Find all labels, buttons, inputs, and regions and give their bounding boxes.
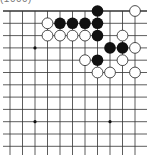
white-stone-icon[interactable] (130, 43, 141, 54)
white-stone-icon[interactable] (80, 30, 91, 41)
black-stone-icon[interactable] (117, 42, 129, 54)
white-stone-icon[interactable] (42, 30, 53, 41)
white-stone-icon[interactable] (117, 30, 128, 41)
white-stone-icon[interactable] (130, 6, 141, 17)
black-stone-icon[interactable] (67, 18, 79, 30)
black-stone-icon[interactable] (92, 18, 104, 30)
white-stone-icon[interactable] (80, 55, 91, 66)
white-stone-icon[interactable] (117, 55, 128, 66)
black-stone-icon[interactable] (92, 5, 104, 17)
black-stone-icon[interactable] (92, 30, 104, 42)
star-point-icon (108, 120, 111, 123)
black-stone-icon[interactable] (79, 18, 91, 30)
white-stone-icon[interactable] (55, 30, 66, 41)
star-point-icon (33, 120, 36, 123)
star-point-icon (33, 46, 36, 49)
white-stone-icon[interactable] (105, 67, 116, 78)
white-stone-icon[interactable] (130, 67, 141, 78)
white-stone-icon[interactable] (42, 18, 53, 29)
white-stone-icon[interactable] (67, 30, 78, 41)
black-stone-icon[interactable] (92, 54, 104, 66)
black-stone-icon[interactable] (54, 18, 66, 30)
go-board (0, 0, 147, 155)
white-stone-icon[interactable] (92, 67, 103, 78)
go-board-grid (0, 0, 147, 155)
black-stone-icon[interactable] (104, 42, 116, 54)
